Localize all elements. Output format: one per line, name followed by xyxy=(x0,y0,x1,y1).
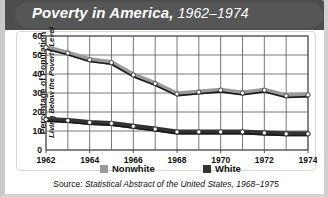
svg-text:40: 40 xyxy=(33,69,43,79)
svg-text:60: 60 xyxy=(33,32,43,41)
legend-swatch-white xyxy=(203,165,211,173)
legend-item-nonwhite: Nonwhite xyxy=(100,163,155,174)
svg-text:30: 30 xyxy=(33,88,43,98)
svg-text:20: 20 xyxy=(33,107,43,117)
source-prefix: Source: xyxy=(53,179,82,189)
svg-text:10: 10 xyxy=(33,126,43,136)
svg-text:50: 50 xyxy=(33,50,43,60)
svg-text:0: 0 xyxy=(37,145,42,155)
legend-label-nonwhite: Nonwhite xyxy=(112,163,155,174)
legend-label-white: White xyxy=(215,163,241,174)
legend-item-white: White xyxy=(203,163,241,174)
source-citation: Statistical Abstract of the United State… xyxy=(85,179,279,189)
title-years-text: 1962–1974 xyxy=(178,5,249,21)
poverty-chart-figure: Poverty in America, 1962–1974 Percentage… xyxy=(0,0,328,197)
source-note: Source: Statistical Abstract of the Unit… xyxy=(16,179,316,189)
chart-legend: Nonwhite White xyxy=(16,163,316,176)
plot-area: 0102030405060196219641966196819701972197… xyxy=(17,32,317,172)
chart-card: Percentage of Population Living Below th… xyxy=(16,31,316,171)
legend-swatch-nonwhite xyxy=(100,165,108,173)
page-title: Poverty in America, 1962–1974 xyxy=(32,4,249,21)
